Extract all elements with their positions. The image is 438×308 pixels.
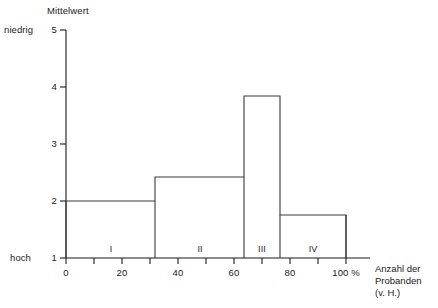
bin-label-IV: IV	[298, 244, 328, 255]
bin-label-III: III	[247, 244, 277, 255]
x-axis-title-line1: Anzahl der	[375, 263, 420, 275]
step-histogram-outline	[66, 96, 346, 258]
x-tick-label-20: 20	[107, 267, 137, 278]
y-tick-label-4: 4	[43, 81, 57, 92]
x-tick-label-0: 0	[51, 267, 81, 278]
x-axis-ticks	[66, 258, 346, 264]
y-axis-anchor-high: hoch	[10, 252, 31, 263]
chart-figure: Mittelwert 5 4 3 2 1 niedrig hoch 0 20 4…	[0, 0, 438, 308]
y-tick-label-5: 5	[43, 24, 57, 35]
x-tick-label-60: 60	[219, 267, 249, 278]
y-axis-ticks	[60, 30, 66, 258]
x-axis-title-line3: (v. H.)	[375, 287, 400, 299]
chart-title: Mittelwert	[47, 5, 89, 16]
bin-label-I: I	[96, 244, 126, 255]
y-tick-label-2: 2	[43, 195, 57, 206]
x-tick-label-40: 40	[163, 267, 193, 278]
bin-label-II: II	[185, 244, 215, 255]
y-tick-label-1: 1	[43, 252, 57, 263]
chart-plot-area	[0, 0, 438, 308]
x-axis-title-line2: Probanden	[375, 275, 421, 287]
x-tick-label-80: 80	[275, 267, 305, 278]
y-tick-label-3: 3	[43, 138, 57, 149]
x-tick-label-100: 100 %	[331, 267, 361, 278]
y-axis-anchor-low: niedrig	[4, 24, 33, 35]
